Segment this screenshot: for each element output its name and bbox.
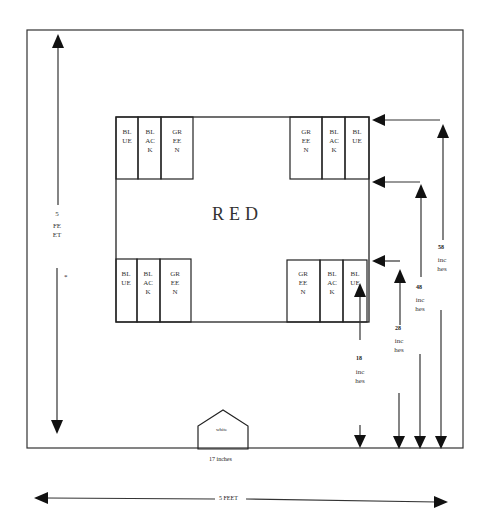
- target-diagram: [0, 0, 485, 531]
- label-bottom-left-black: BLACK: [143, 270, 153, 297]
- dimension-18-unit: inches: [355, 368, 365, 386]
- outer-frame: [27, 30, 463, 448]
- label-top-right-green: GREEN: [301, 128, 311, 155]
- left-dimension-note: *: [64, 273, 68, 281]
- label-bottom-right-green: GREEN: [298, 270, 308, 297]
- label-top-right-black: BLACK: [329, 128, 339, 155]
- label-bottom-left-green: GREEN: [170, 270, 180, 297]
- dimension-18-value: 18: [356, 355, 362, 361]
- label-bottom-right-blue: BLUE: [350, 270, 360, 288]
- home-plate-width-label: 17 inches: [209, 456, 232, 462]
- left-dimension-value: 5: [52, 210, 62, 219]
- dimension-28-unit: inches: [394, 337, 404, 355]
- dimension-58-unit: inches: [437, 256, 447, 274]
- dimension-48-value: 48: [416, 284, 422, 290]
- label-bottom-left-blue: BLUE: [121, 270, 131, 288]
- label-top-left-black: BLACK: [145, 128, 155, 155]
- dimension-28-value: 28: [395, 325, 401, 331]
- label-top-left-green: GREEN: [172, 128, 182, 155]
- left-dimension-unit: FEET: [52, 222, 62, 240]
- label-bottom-right-black: BLACK: [327, 270, 337, 297]
- bottom-dimension-label: 5 FEET: [219, 495, 238, 501]
- dimension-48-unit: inches: [415, 296, 425, 314]
- dimension-58-value: 58: [438, 244, 444, 250]
- home-plate-label: white: [216, 427, 227, 432]
- label-top-right-blue: BLUE: [352, 128, 362, 146]
- red-area-label: RED: [212, 204, 263, 225]
- label-top-left-blue: BLUE: [122, 128, 132, 146]
